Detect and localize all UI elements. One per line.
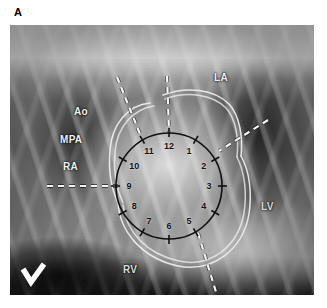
panel-label: A <box>14 6 22 18</box>
anatomy-label-rv: RV <box>123 264 137 275</box>
anatomy-label-la: LA <box>214 72 228 83</box>
clock-hour-7: 7 <box>146 216 151 226</box>
anatomy-label-lv: LV <box>261 201 274 212</box>
clock-hour-10: 10 <box>129 161 139 171</box>
clock-hour-11: 11 <box>144 146 154 156</box>
clock-hour-12: 12 <box>164 141 174 151</box>
clock-hour-2: 2 <box>201 161 206 171</box>
figure-panel: A AoMPARALALVRV 121234567891011 <box>0 0 327 308</box>
clock-hour-4: 4 <box>201 201 206 211</box>
vignette-layer <box>10 25 314 295</box>
clock-hour-9: 9 <box>126 181 131 191</box>
clock-hour-3: 3 <box>206 181 211 191</box>
clock-hour-6: 6 <box>166 221 171 231</box>
anatomy-label-mpa: MPA <box>60 134 82 145</box>
clock-hour-8: 8 <box>132 201 137 211</box>
radiograph-image <box>10 25 314 295</box>
clock-hour-1: 1 <box>186 146 191 156</box>
clock-hour-5: 5 <box>186 216 191 226</box>
anatomy-label-ao: Ao <box>74 106 88 117</box>
left-marker-icon <box>20 258 46 288</box>
anatomy-label-ra: RA <box>63 161 78 172</box>
